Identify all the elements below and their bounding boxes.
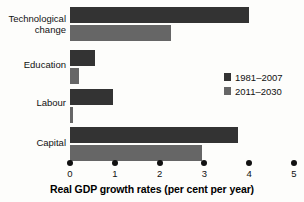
legend: 1981–2007 2011–2030 [224,71,283,99]
bar-education-1981-2007 [70,50,95,66]
legend-item-1981-2007: 1981–2007 [224,71,283,83]
legend-label: 2011–2030 [235,86,282,97]
bar-labour-1981-2007 [70,89,113,105]
x-tick-label: 2 [157,168,162,179]
legend-label: 1981–2007 [235,72,283,83]
legend-swatch-icon [224,87,231,95]
x-tick-dot [201,160,207,166]
bar-education-2011-2030 [70,68,79,84]
legend-item-2011-2030: 2011–2030 [224,85,283,97]
bar-labour-2011-2030 [70,107,73,123]
bar-technological-change-1981-2007 [70,7,249,23]
category-label-education: Education [2,60,66,71]
x-tick-dot [291,160,297,166]
x-tick-dot [67,160,73,166]
bar-technological-change-2011-2030 [70,25,171,41]
x-tick-dot [246,160,252,166]
x-tick-dot [112,160,118,166]
x-axis-ticks [70,160,294,169]
x-tick-dot [157,160,163,166]
bar-capital-2011-2030 [70,145,202,161]
bar-capital-1981-2007 [70,127,238,143]
x-tick-label: 4 [247,168,252,179]
category-label-capital: Capital [2,138,66,149]
x-tick-label: 0 [67,168,72,179]
x-tick-label: 5 [291,168,296,179]
legend-swatch-icon [224,73,231,81]
x-tick-label: 3 [202,168,207,179]
category-label-technological-change: Technological change [2,14,66,35]
category-label-labour: Labour [2,98,66,109]
x-tick-label: 1 [112,168,117,179]
x-axis-title: Real GDP growth rates (per cent per year… [0,183,304,195]
bar-chart: Technological change Education Labour Ca… [0,0,304,202]
